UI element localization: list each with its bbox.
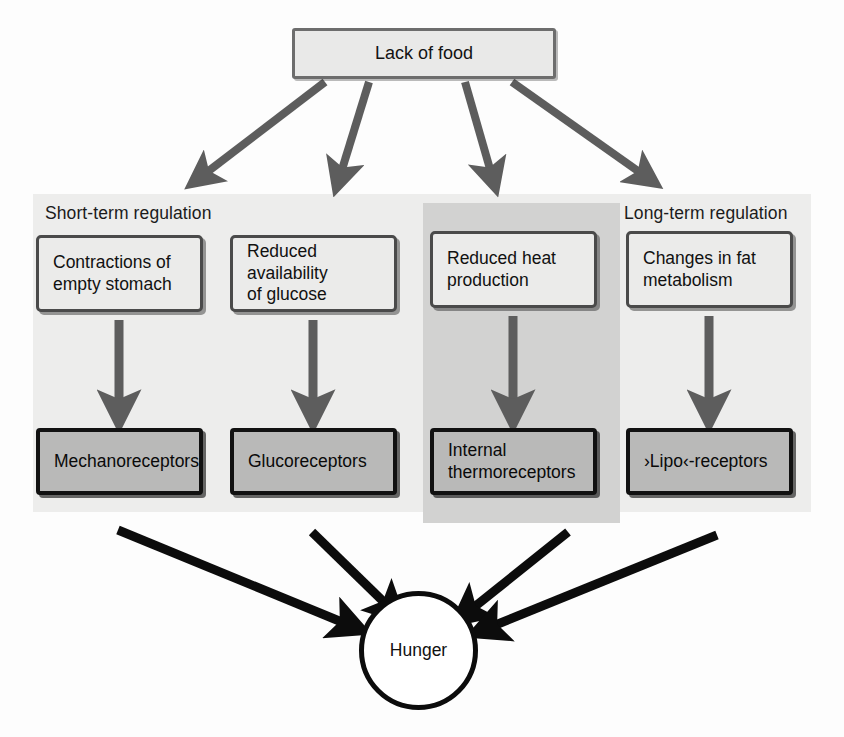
node-heat-label: Reduced heatproduction — [447, 248, 556, 291]
arrow-source-to-glucose — [340, 82, 369, 176]
arrow-mechanoreceptors-to-hunger — [118, 530, 349, 625]
node-internal-thermoreceptors[interactable]: Internalthermoreceptors — [430, 428, 597, 495]
panel-label-short-term: Short-term regulation — [45, 203, 211, 224]
node-thermoreceptors-label: Internalthermoreceptors — [448, 440, 575, 483]
node-changes-in-fat-metabolism[interactable]: Changes in fatmetabolism — [626, 231, 793, 308]
node-hunger[interactable]: Hunger — [359, 591, 478, 710]
node-liporeceptors-label: ›Lipo‹-receptors — [644, 451, 768, 472]
node-mechanoreceptors-label: Mechanoreceptors — [54, 451, 199, 472]
node-fat-label: Changes in fatmetabolism — [643, 248, 756, 291]
arrow-source-to-contractions — [202, 82, 325, 176]
node-glucoreceptors[interactable]: Glucoreceptors — [230, 428, 397, 495]
node-lack-of-food[interactable]: Lack of food — [292, 28, 556, 79]
node-hunger-label: Hunger — [390, 640, 447, 661]
node-contractions-of-empty-stomach[interactable]: Contractions ofempty stomach — [36, 235, 203, 312]
arrow-glucoreceptors-to-hunger — [312, 532, 390, 608]
arrow-thermoreceptors-to-hunger — [468, 532, 568, 612]
arrow-liporeceptors-to-hunger — [488, 535, 717, 628]
node-glucose-label: Reduced availabilityof glucose — [247, 241, 394, 305]
diagram-canvas: Short-term regulation Long-term regulati… — [0, 0, 844, 737]
node-glucoreceptors-label: Glucoreceptors — [248, 451, 367, 472]
arrow-source-to-heat — [465, 82, 492, 176]
panel-label-long-term: Long-term regulation — [624, 203, 787, 224]
node-reduced-heat-production[interactable]: Reduced heatproduction — [430, 231, 597, 308]
arrows-from-lack-of-food — [202, 82, 645, 176]
node-lipo-receptors[interactable]: ›Lipo‹-receptors — [626, 428, 793, 495]
node-lack-of-food-label: Lack of food — [375, 43, 473, 64]
arrow-source-to-fat — [512, 82, 645, 176]
node-reduced-availability-of-glucose[interactable]: Reduced availabilityof glucose — [230, 235, 397, 312]
node-mechanoreceptors[interactable]: Mechanoreceptors — [36, 428, 203, 495]
node-contractions-label: Contractions ofempty stomach — [53, 252, 172, 295]
